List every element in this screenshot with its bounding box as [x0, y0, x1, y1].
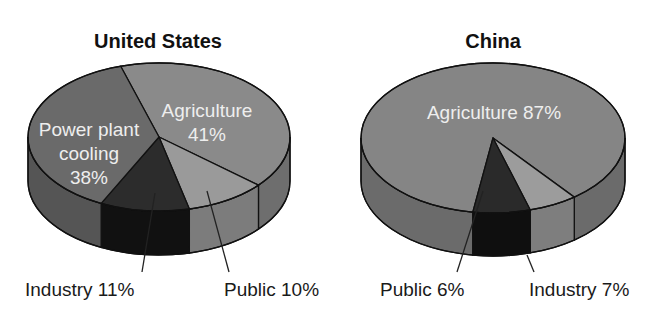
pie-side-industry: [473, 210, 530, 256]
label-us-power-plant: Power plant: [39, 119, 140, 140]
pie-chart-china: [361, 63, 625, 256]
label-china-public: Public 6%: [380, 279, 465, 300]
leader-china-industry: [527, 255, 534, 272]
label-us-agriculture: Agriculture: [162, 100, 253, 121]
label-us-cooling: cooling: [59, 143, 119, 164]
label-us-agriculture-pct: 41%: [188, 124, 226, 145]
label-china-agriculture: Agriculture 87%: [427, 102, 561, 123]
chart-canvas: United States Agriculture 41% Power plan…: [0, 0, 656, 315]
label-china-industry: Industry 7%: [529, 279, 629, 300]
label-us-industry: Industry 11%: [25, 279, 135, 300]
chart-title-united-states: United States: [94, 30, 222, 52]
label-us-public: Public 10%: [224, 279, 319, 300]
chart-title-china: China: [465, 30, 521, 52]
label-us-power-pct: 38%: [70, 167, 108, 188]
